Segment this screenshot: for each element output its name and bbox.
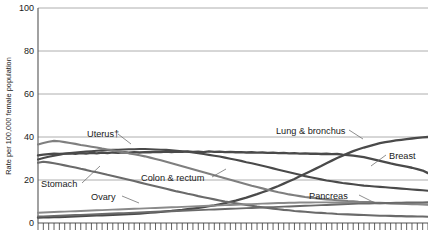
series-label-stomach: Stomach [41,179,77,189]
y-tick-80: 80 [24,46,34,56]
leader-ovary [122,196,139,203]
y-tick-0: 0 [29,218,34,228]
series-label-breast: Breast [389,151,416,161]
y-tick-60: 60 [24,89,34,99]
y-axis-title: Rate per 100,000 female population [4,57,13,175]
series-label-uterus: Uterus† [87,129,119,139]
series-line-breast [38,151,428,173]
leader-lung [349,130,363,139]
y-tick-100: 100 [19,3,34,13]
data-series-group [38,137,428,218]
line-chart: 100 80 60 40 20 0 Rate per 100,000 femal… [0,0,428,232]
series-line-colon-rectum [38,149,428,191]
series-label-pancreas: Pancreas [309,191,348,201]
series-label-ovary: Ovary [91,192,116,202]
x-axis-tickmarks [38,223,428,230]
series-label-lung: Lung & bronchus [276,126,346,136]
leader-breast [371,155,386,166]
y-axis-ticks: 100 80 60 40 20 0 [19,3,34,228]
leader-uterus [118,134,131,144]
y-tick-40: 40 [24,132,34,142]
chart-container: 100 80 60 40 20 0 Rate per 100,000 femal… [0,0,428,232]
series-label-colon: Colon & rectum [141,173,205,183]
y-tick-20: 20 [24,175,34,185]
